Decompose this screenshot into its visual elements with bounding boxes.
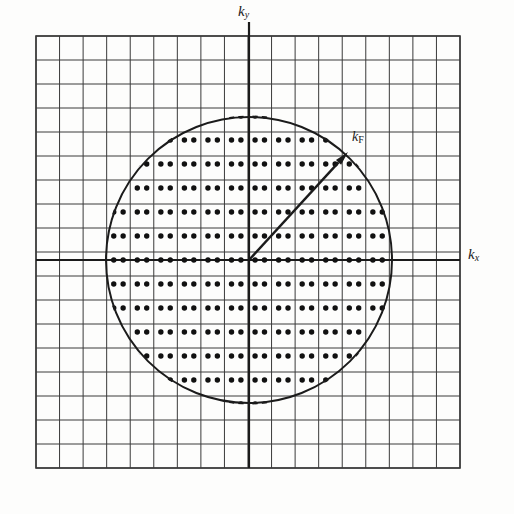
k-state-dot <box>252 281 257 286</box>
kx-label-subscript: x <box>475 252 479 263</box>
k-state-dot <box>215 161 220 166</box>
k-state-dot <box>332 185 337 190</box>
k-state-dot <box>205 137 210 142</box>
k-state-dot <box>285 305 290 310</box>
k-state-dot <box>299 137 304 142</box>
kf-label-subscript: F <box>358 134 364 145</box>
k-state-dot <box>347 257 352 262</box>
k-state-dot <box>356 185 361 190</box>
k-state-dot <box>182 257 187 262</box>
k-state-dot <box>276 137 281 142</box>
k-state-dot <box>191 257 196 262</box>
k-state-dot <box>158 305 163 310</box>
k-state-dot <box>276 161 281 166</box>
k-state-dot <box>370 209 375 214</box>
k-state-dot <box>205 257 210 262</box>
k-state-dot <box>262 209 267 214</box>
kx-axis-label: kx <box>468 246 479 263</box>
k-state-dot <box>215 209 220 214</box>
k-state-dot <box>168 161 173 166</box>
k-state-dot <box>299 185 304 190</box>
k-state-dot <box>262 257 267 262</box>
k-state-dot <box>347 233 352 238</box>
k-state-dot <box>252 305 257 310</box>
k-state-dot <box>135 329 140 334</box>
k-state-dot <box>262 137 267 142</box>
k-state-dot <box>182 353 187 358</box>
k-state-dot <box>276 329 281 334</box>
k-state-dot <box>299 329 304 334</box>
k-state-dot <box>215 257 220 262</box>
k-state-dot <box>238 305 243 310</box>
k-state-dot <box>215 377 220 382</box>
k-state-dot <box>262 161 267 166</box>
k-state-dot <box>191 377 196 382</box>
k-state-dot <box>252 161 257 166</box>
k-state-dot <box>182 305 187 310</box>
k-state-dot <box>120 257 125 262</box>
k-state-dot <box>205 329 210 334</box>
fermi-diagram-canvas <box>0 0 514 514</box>
k-state-dot <box>238 377 243 382</box>
k-state-dot <box>158 209 163 214</box>
k-state-dot <box>191 137 196 142</box>
k-state-dot <box>135 233 140 238</box>
k-state-dot <box>120 209 125 214</box>
k-state-dot <box>323 257 328 262</box>
k-state-dot <box>215 233 220 238</box>
k-state-dot <box>332 377 337 382</box>
k-state-dot <box>380 257 385 262</box>
k-state-dot <box>205 185 210 190</box>
k-state-dot <box>229 353 234 358</box>
k-state-dot <box>120 281 125 286</box>
k-state-dot <box>168 233 173 238</box>
k-state-dot <box>323 233 328 238</box>
k-state-dot <box>323 281 328 286</box>
k-state-dot <box>144 305 149 310</box>
k-state-dot <box>158 257 163 262</box>
k-state-dot <box>238 257 243 262</box>
k-state-dot <box>347 305 352 310</box>
k-state-dot <box>356 209 361 214</box>
k-state-dot <box>309 161 314 166</box>
k-state-dot <box>135 185 140 190</box>
k-state-dot <box>309 305 314 310</box>
k-state-dot <box>252 353 257 358</box>
k-state-dot <box>262 305 267 310</box>
k-state-dot <box>309 281 314 286</box>
k-state-dot <box>158 233 163 238</box>
k-state-dot <box>111 233 116 238</box>
k-state-dot <box>229 161 234 166</box>
k-state-dot <box>285 353 290 358</box>
k-state-dot <box>370 233 375 238</box>
k-state-dot <box>238 185 243 190</box>
k-state-dot <box>262 353 267 358</box>
k-state-dot <box>168 281 173 286</box>
k-state-dot <box>299 377 304 382</box>
k-state-dot <box>285 137 290 142</box>
k-state-dot <box>238 329 243 334</box>
k-state-dot <box>158 161 163 166</box>
k-state-dot <box>191 329 196 334</box>
k-state-dot <box>229 257 234 262</box>
ky-label-base: k <box>238 3 245 19</box>
k-state-dot <box>158 137 163 142</box>
k-state-dot <box>229 281 234 286</box>
k-state-dot <box>262 233 267 238</box>
k-state-dot <box>252 377 257 382</box>
k-state-dot <box>332 257 337 262</box>
figure-root: ky kx kF <box>0 0 514 514</box>
k-state-dot <box>262 281 267 286</box>
k-state-dot <box>191 209 196 214</box>
k-state-dot <box>252 185 257 190</box>
k-state-dot <box>191 281 196 286</box>
k-state-dot <box>135 305 140 310</box>
k-state-dot <box>323 353 328 358</box>
k-state-dot <box>299 281 304 286</box>
k-state-dot <box>135 257 140 262</box>
k-state-dot <box>285 377 290 382</box>
k-state-dot <box>347 353 352 358</box>
k-state-dot <box>276 353 281 358</box>
k-state-dot <box>356 329 361 334</box>
k-state-dot <box>168 353 173 358</box>
